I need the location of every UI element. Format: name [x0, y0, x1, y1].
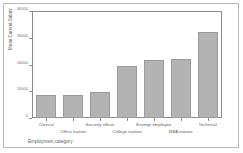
- x-tick-3: [127, 118, 128, 121]
- y-tick-label-2: 20000: [17, 61, 28, 65]
- bar-mba-trainee: [171, 59, 191, 118]
- x-tick-4: [154, 118, 155, 121]
- bar-security-officer: [90, 92, 110, 118]
- bar-slot-6: [194, 12, 221, 118]
- x-label-college-trainee: College trainee: [112, 129, 142, 134]
- bar-slot-4: [140, 12, 167, 118]
- bar-clerical: [36, 95, 56, 118]
- x-label-mba-trainee: MBA trainee: [169, 129, 193, 134]
- x-tick-1: [73, 118, 74, 121]
- bar-technical: [198, 32, 218, 118]
- bar-slot-0: [33, 12, 60, 118]
- x-tick-6: [208, 118, 209, 121]
- bar-college-trainee: [117, 66, 137, 118]
- bar-office-trainee: [63, 95, 83, 118]
- x-tick-5: [181, 118, 182, 121]
- bar-slot-2: [87, 12, 114, 118]
- x-label-clerical: Clerical: [39, 122, 54, 127]
- y-tick-label-0: 0: [26, 114, 28, 118]
- bar-slot-3: [114, 12, 141, 118]
- x-label-technical: Technical: [198, 122, 216, 127]
- x-tick-2: [100, 118, 101, 121]
- bar-series: [33, 12, 221, 118]
- y-axis-title: Mean Current Salary: [8, 0, 13, 50]
- x-label-exempt-employee: Exempt employee: [136, 122, 171, 127]
- y-tick-label-1: 10000: [17, 87, 28, 91]
- bar-slot-1: [60, 12, 87, 118]
- x-label-office-trainee: Office trainee: [60, 129, 86, 134]
- bar-slot-5: [167, 12, 194, 118]
- y-tick-label-4: 40000: [17, 7, 28, 11]
- chart-figure: 0 10000 20000 30000 40000 Mean Current S…: [0, 0, 243, 153]
- bar-exempt-employee: [144, 60, 164, 118]
- x-axis-title: Employment category: [28, 139, 72, 145]
- x-label-security-officer: Security officer: [86, 122, 115, 127]
- x-tick-0: [46, 118, 47, 121]
- y-tick-label-3: 30000: [17, 34, 28, 38]
